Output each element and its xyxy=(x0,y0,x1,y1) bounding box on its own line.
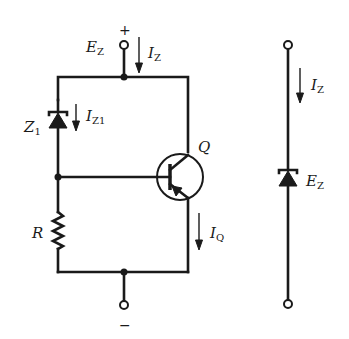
main-circuit: + EZ IZ Z1 xyxy=(23,22,224,333)
bottom-terminal xyxy=(120,301,128,309)
supply-current-arrow xyxy=(136,37,143,73)
minus-sign: − xyxy=(119,317,131,333)
equivalent-zener-circuit: IZ EZ xyxy=(279,41,324,308)
resistor-r-label: R xyxy=(31,224,43,242)
plus-sign: + xyxy=(119,22,131,38)
equivalent-current-label: IZ xyxy=(310,76,324,95)
top-rail-wire xyxy=(58,77,188,152)
transistor-current-arrow xyxy=(196,213,203,250)
supply-voltage-label: EZ xyxy=(85,38,104,57)
zener-current-arrow xyxy=(73,104,80,131)
equivalent-top-terminal xyxy=(284,41,292,49)
transistor-q-label: Q xyxy=(198,138,210,156)
resistor-icon xyxy=(53,177,63,272)
equivalent-bottom-terminal xyxy=(284,300,292,308)
equivalent-current-arrow xyxy=(297,68,304,103)
zener-current-label: IZ1 xyxy=(85,107,105,126)
zener-z1-label: Z1 xyxy=(23,118,41,137)
transistor-current-label: IQ xyxy=(209,224,224,243)
top-terminal xyxy=(120,41,128,49)
supply-current-label: IZ xyxy=(147,44,161,63)
zener-amplifier-circuit-diagram: + EZ IZ Z1 xyxy=(0,0,349,339)
equivalent-zener-diode-icon xyxy=(279,170,297,186)
top-junction-dot xyxy=(121,74,128,81)
zener-diode-z1-icon xyxy=(49,100,67,177)
equivalent-voltage-label: EZ xyxy=(305,172,324,191)
